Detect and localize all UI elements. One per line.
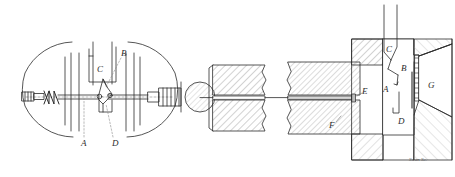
housing-shoulder xyxy=(352,39,383,65)
right-frame-bars xyxy=(126,53,140,131)
right-assembly-group xyxy=(185,5,452,160)
ball-element xyxy=(185,82,215,112)
engraver-signature: Swan Sc. xyxy=(409,157,427,162)
left-label-A: A xyxy=(80,138,87,148)
left-label-B: B xyxy=(121,48,127,58)
right-label-G: G xyxy=(428,80,435,90)
right-label-A: A xyxy=(382,84,389,94)
right-label-C: C xyxy=(386,44,393,54)
right-label-E: E xyxy=(361,86,368,96)
right-spring-assembly xyxy=(148,82,181,112)
right-label-F: F xyxy=(328,120,335,130)
pawl-detent xyxy=(97,79,112,112)
right-label-B: B xyxy=(401,63,407,73)
left-spring-assembly xyxy=(22,91,59,104)
technical-diagram: A B C D A B C D E F G Swan Sc. xyxy=(0,0,455,177)
left-frame-bars xyxy=(65,53,79,131)
left-label-D: D xyxy=(111,138,119,148)
ratchet-strip xyxy=(415,55,419,101)
right-label-D: D xyxy=(397,116,405,126)
left-label-C: C xyxy=(97,64,104,74)
engraving-figure-canvas: A B C D A B C D E F G Swan Sc. xyxy=(0,0,455,177)
left-assembly-group xyxy=(22,42,181,137)
